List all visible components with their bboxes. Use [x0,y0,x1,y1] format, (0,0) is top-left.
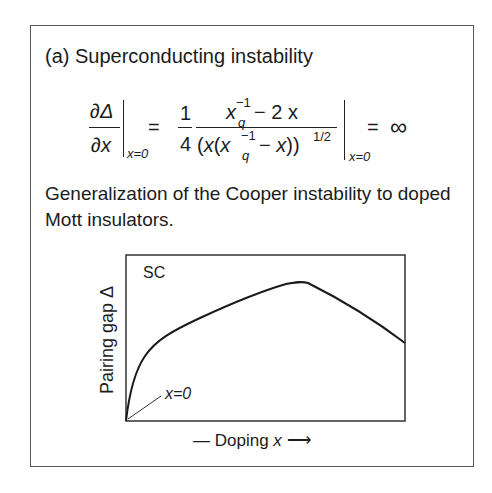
y-axis-label: Pairing gap Δ [98,286,116,394]
pairing-gap-chart [0,0,492,493]
x-axis-dash: — [193,431,210,450]
x0-annotation: x=0 [165,386,191,402]
x-axis-label: — Doping x ⟶ [193,432,311,449]
x0-leader-line [128,396,161,419]
sc-region-label: SC [143,265,165,281]
arrow-right-icon: ⟶ [287,431,311,450]
